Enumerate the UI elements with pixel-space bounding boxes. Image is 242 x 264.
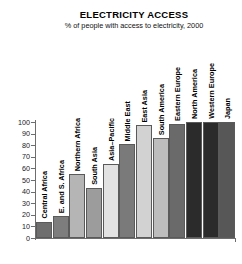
bar-group: Middle East — [119, 122, 135, 238]
bar-group: Asia–Pacific — [103, 122, 119, 238]
x-axis-line — [35, 238, 236, 239]
bar-group: Japan — [219, 122, 235, 238]
bar-group: East Asia — [136, 122, 152, 238]
bar — [169, 124, 185, 238]
y-axis-tick-label: 70 — [4, 153, 30, 160]
y-axis-tick-label: 50 — [4, 177, 30, 184]
y-axis-tick-label: 0 — [4, 235, 30, 242]
bar-category-label: South Asia — [89, 147, 100, 185]
bar — [69, 174, 85, 238]
y-axis-tick-label: 90 — [4, 130, 30, 137]
y-axis-tick — [31, 238, 36, 239]
bar — [119, 144, 135, 238]
bar — [203, 122, 219, 238]
bar-group: South Asia — [86, 122, 102, 238]
bar-group: South America — [153, 122, 169, 238]
bar-category-label: Western Europe — [205, 63, 216, 119]
y-axis-tick-label: 60 — [4, 165, 30, 172]
bar-group: E. and S. Africa — [53, 122, 69, 238]
bar — [86, 188, 102, 238]
y-axis-tick-label: 30 — [4, 200, 30, 207]
x-axis-endcap — [235, 238, 236, 242]
bar — [136, 125, 152, 238]
bar-group: Eastern Europe — [169, 122, 185, 238]
bar-category-label: Central Africa — [39, 171, 50, 219]
bar — [186, 122, 202, 238]
bar — [219, 122, 235, 238]
electricity-access-chart: ELECTRICITY ACCESS % of people with acce… — [0, 0, 242, 264]
y-axis-tick-label: 20 — [4, 211, 30, 218]
bar-category-label: South America — [155, 84, 166, 135]
bar-group: North America — [186, 122, 202, 238]
chart-title: ELECTRICITY ACCESS — [26, 9, 242, 20]
bar-category-label: North America — [189, 69, 200, 119]
y-axis-tick-label: 100 — [4, 119, 30, 126]
bar-group: Central Africa — [36, 122, 52, 238]
bar-category-label: Middle East — [122, 101, 133, 142]
y-axis-tick-label: 10 — [4, 223, 30, 230]
bar — [153, 138, 169, 238]
bar-category-label: E. and S. Africa — [55, 160, 66, 213]
bar-series: Central AfricaE. and S. AfricaNorthern A… — [36, 122, 236, 238]
bar-group: Western Europe — [203, 122, 219, 238]
bar-group: Northern Africa — [69, 122, 85, 238]
bar — [36, 222, 52, 238]
bar-category-label: Asia–Pacific — [105, 118, 116, 161]
bar-category-label: Japan — [222, 98, 233, 119]
bar — [103, 164, 119, 238]
bar-category-label: East Asia — [139, 90, 150, 123]
bar-category-label: Eastern Europe — [172, 67, 183, 121]
chart-subtitle: % of people with access to electricity, … — [26, 21, 242, 31]
bar-category-label: Northern Africa — [72, 118, 83, 171]
chart-title-block: ELECTRICITY ACCESS % of people with acce… — [0, 9, 242, 31]
y-axis-tick-label: 80 — [4, 142, 30, 149]
bar — [53, 216, 69, 238]
y-axis-tick-label: 40 — [4, 188, 30, 195]
